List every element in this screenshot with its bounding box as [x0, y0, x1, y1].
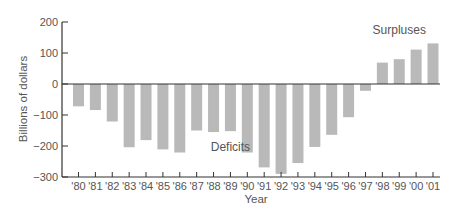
- x-tick-label: '83: [122, 180, 136, 192]
- x-tick-label: '98: [375, 180, 389, 192]
- bar-93: [292, 84, 303, 163]
- x-tick-label: '84: [139, 180, 153, 192]
- x-tick-label: '89: [223, 180, 237, 192]
- y-tick-label: 0: [52, 78, 58, 90]
- bar-91: [259, 84, 270, 167]
- bar-01: [428, 43, 439, 84]
- y-axis: 2001000−100−200−300: [33, 16, 68, 183]
- bar-95: [326, 84, 337, 135]
- x-tick-label: '85: [156, 180, 170, 192]
- bar-98: [377, 63, 388, 84]
- x-tick-label: '01: [426, 180, 440, 192]
- x-tick-label: '96: [341, 180, 355, 192]
- x-tick-label: '00: [409, 180, 423, 192]
- x-tick-label: '88: [206, 180, 220, 192]
- x-tick-label: '82: [105, 180, 119, 192]
- bar-83: [124, 84, 135, 147]
- x-tick-label: '80: [71, 180, 85, 192]
- x-axis-title: Year: [244, 193, 267, 205]
- x-tick-label: '91: [257, 180, 271, 192]
- x-tick-label: '86: [173, 180, 187, 192]
- y-tick-label: 200: [40, 16, 58, 28]
- y-tick-label: 100: [40, 47, 58, 59]
- x-tick-label: '81: [88, 180, 102, 192]
- budget-balance-bar-chart: 2001000−100−200−300 '80'81'82'83'84'85'8…: [0, 0, 457, 214]
- bar-96: [343, 84, 354, 117]
- bar-89: [225, 84, 236, 131]
- y-tick-label: −300: [33, 171, 58, 183]
- bar-82: [107, 84, 118, 122]
- y-axis-title: Billions of dollars: [17, 56, 29, 143]
- x-axis: '80'81'82'83'84'85'86'87'88'89'90'91'92'…: [62, 172, 440, 192]
- bar-80: [73, 84, 84, 106]
- x-tick-label: '99: [392, 180, 406, 192]
- bar-84: [141, 84, 152, 140]
- x-tick-label: '87: [189, 180, 203, 192]
- x-tick-label: '95: [325, 180, 339, 192]
- bar-87: [191, 84, 202, 131]
- bar-99: [394, 59, 405, 84]
- x-tick-label: '92: [274, 180, 288, 192]
- x-tick-label: '93: [291, 180, 305, 192]
- bar-97: [360, 84, 371, 91]
- bar-94: [309, 84, 320, 147]
- annotation-deficits: Deficits: [211, 140, 250, 154]
- bar-92: [276, 84, 287, 174]
- bars: [73, 43, 439, 174]
- x-tick-label: '90: [240, 180, 254, 192]
- x-tick-label: '94: [308, 180, 322, 192]
- bar-81: [90, 84, 101, 110]
- y-tick-label: −100: [33, 109, 58, 121]
- annotation-surpluses: Surpluses: [373, 23, 426, 37]
- x-tick-label: '97: [358, 180, 372, 192]
- bar-88: [208, 84, 219, 132]
- bar-85: [157, 84, 168, 149]
- bar-00: [411, 50, 422, 84]
- bar-86: [174, 84, 185, 153]
- y-tick-label: −200: [33, 140, 58, 152]
